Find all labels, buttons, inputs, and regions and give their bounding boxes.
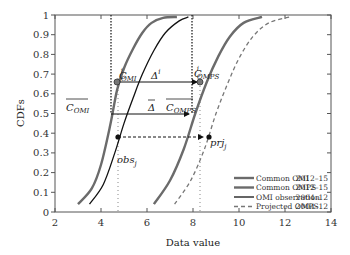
- x-tick-label: 4: [98, 217, 104, 228]
- svg-text:COMI: COMI: [66, 102, 90, 115]
- series-common-omi: [78, 17, 177, 204]
- legend-period: 2004–12: [296, 202, 329, 211]
- x-tick-label: 8: [190, 217, 196, 228]
- y-tick-label: 0.6: [33, 88, 49, 99]
- cbar-omi-label: COMI: [66, 99, 90, 115]
- legend-period: 2012–15: [296, 183, 329, 192]
- y-tick-label: 1: [43, 10, 49, 21]
- x-axis-label: Data value: [166, 237, 220, 248]
- delta-i-label: Δi: [150, 68, 160, 81]
- x-tick-label: 10: [233, 217, 246, 228]
- y-tick-label: 0.1: [33, 187, 49, 198]
- x-tick-label: 12: [279, 217, 292, 228]
- y-tick-label: 0.7: [33, 69, 49, 80]
- delta-bar-label: Δ: [147, 100, 155, 113]
- cdf-chart: 2468101214 00.10.20.30.40.50.60.70.80.91…: [0, 0, 350, 255]
- x-tick-label: 2: [52, 217, 58, 228]
- y-axis-label: CDFs: [15, 99, 26, 127]
- legend-period: 2012–15: [296, 174, 329, 183]
- svg-text:Δ: Δ: [147, 102, 155, 113]
- y-tick-label: 0.3: [33, 147, 49, 158]
- legend: Common OMI2012–15Common OMPS2012–15OMI o…: [234, 174, 328, 212]
- obs-point: [115, 134, 120, 139]
- y-tick-label: 0.5: [33, 108, 49, 119]
- y-tick-label: 0: [43, 207, 49, 218]
- y-tick-label: 0.9: [33, 29, 49, 40]
- cbar-omps-label: COMPS: [166, 99, 196, 115]
- y-tick-label: 0.2: [33, 167, 49, 178]
- y-tick-label: 0.8: [33, 49, 49, 60]
- svg-text:COMPS: COMPS: [166, 102, 196, 115]
- x-tick-label: 14: [325, 217, 338, 228]
- c-omps-label: CiOMPS: [194, 65, 220, 81]
- c-omi-label: CiOMI: [119, 67, 137, 83]
- x-tick-label: 6: [144, 217, 150, 228]
- obs-label: obsj: [117, 154, 138, 168]
- legend-period: 2004–12: [296, 193, 329, 202]
- y-tick-label: 0.4: [33, 128, 49, 139]
- prj-label: prjj: [210, 137, 227, 151]
